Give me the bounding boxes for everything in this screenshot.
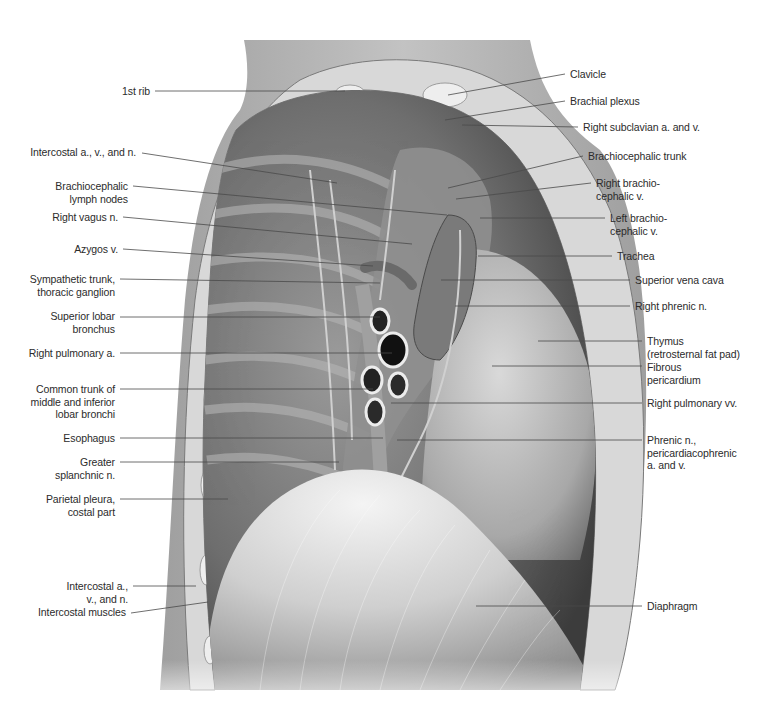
label-right-pulmonary-vv: Right pulmonary vv. [647, 397, 737, 410]
label-phrenic-n-pericardiacophrenic: Phrenic n., pericardiacophrenic a. and v… [647, 434, 737, 472]
label-brachiocephalic-lymph-nodes: Brachiocephalic lymph nodes [55, 180, 128, 205]
label-right-subclavian-av: Right subclavian a. and v. [583, 121, 700, 134]
label-thymus: Thymus (retrosternal fat pad) [647, 335, 740, 360]
label-sympathetic-trunk: Sympathetic trunk, thoracic ganglion [30, 273, 115, 298]
label-intercostal-muscles: Intercostal muscles [38, 606, 126, 619]
label-azygos-v: Azygos v. [74, 243, 118, 256]
label-diaphragm: Diaphragm [647, 600, 697, 613]
label-intercostal-avn-lower: Intercostal a., v., and n. [66, 580, 128, 605]
label-intercostal-avn-upper: Intercostal a., v., and n. [30, 146, 136, 159]
label-right-pulmonary-a: Right pulmonary a. [29, 347, 115, 360]
label-common-trunk-bronchi: Common trunk of middle and inferior loba… [31, 383, 115, 421]
label-fibrous-pericardium: Fibrous pericardium [647, 361, 701, 386]
label-superior-vena-cava: Superior vena cava [635, 274, 724, 287]
label-right-phrenic-n: Right phrenic n. [635, 300, 707, 313]
label-right-brachiocephalic-v: Right brachio- cephalic v. [596, 177, 660, 202]
label-parietal-pleura-costal: Parietal pleura, costal part [46, 493, 115, 518]
label-greater-splanchnic-n: Greater splanchnic n. [55, 456, 115, 481]
bottom-fade [150, 660, 650, 715]
label-trachea: Trachea [617, 250, 654, 263]
label-esophagus: Esophagus [63, 432, 115, 445]
label-clavicle: Clavicle [570, 68, 606, 81]
label-right-vagus-n: Right vagus n. [52, 211, 118, 224]
label-first-rib: 1st rib [122, 85, 150, 98]
label-left-brachiocephalic-v: Left brachio- cephalic v. [610, 212, 667, 237]
label-brachial-plexus: Brachial plexus [570, 95, 640, 108]
label-brachiocephalic-trunk: Brachiocephalic trunk [588, 150, 686, 163]
label-superior-lobar-bronchus: Superior lobar bronchus [50, 310, 115, 335]
